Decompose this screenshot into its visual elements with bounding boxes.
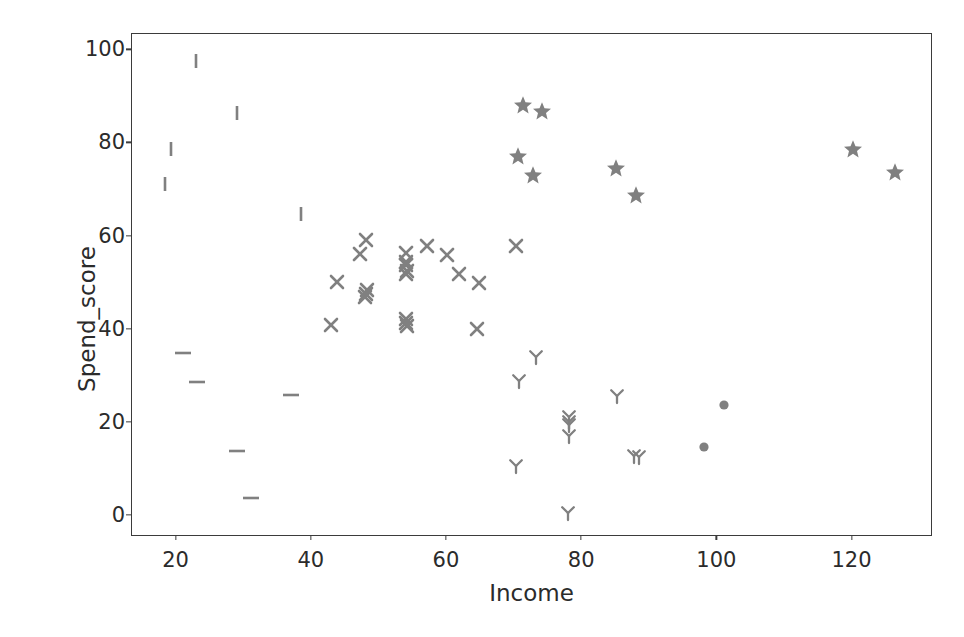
- data-point-x: [468, 320, 486, 338]
- x-tick-label: 80: [568, 548, 595, 572]
- y-tick-label: 60: [98, 224, 125, 248]
- data-point-vline: [160, 176, 170, 192]
- data-point-x: [450, 265, 468, 283]
- data-point-hline: [282, 390, 300, 400]
- data-point-x: [470, 274, 488, 292]
- data-point-tri_down_y: [560, 505, 576, 521]
- data-point-tri_down_y: [561, 428, 577, 444]
- data-point-tri_down_y: [609, 388, 625, 404]
- data-point-x: [356, 288, 374, 306]
- plot-area: [131, 33, 932, 536]
- data-point-x: [397, 314, 415, 332]
- data-point-x: [398, 262, 416, 280]
- data-point-star: [523, 165, 543, 185]
- data-point-x: [397, 310, 415, 328]
- data-point-x: [397, 253, 415, 271]
- data-point-tri_down_y: [508, 458, 524, 474]
- data-point-circle: [698, 441, 710, 453]
- data-point-vline: [191, 53, 201, 69]
- y-tick-label: 80: [98, 130, 125, 154]
- x-tick-label: 40: [297, 548, 324, 572]
- data-point-tri_down_y: [561, 414, 577, 430]
- data-point-star: [508, 146, 528, 166]
- data-point-x: [397, 265, 415, 283]
- data-point-vline: [232, 105, 242, 121]
- data-point-star: [606, 158, 626, 178]
- data-point-x: [358, 281, 376, 299]
- data-point-x: [351, 245, 369, 263]
- x-tick-label: 100: [696, 548, 736, 572]
- data-point-x: [438, 246, 456, 264]
- data-point-hline: [174, 348, 192, 358]
- scatter-plot-figure: Spend_score 020406080100 20406080100120 …: [0, 0, 964, 637]
- data-point-tri_down_y: [631, 449, 647, 465]
- x-tick-mark: [445, 535, 446, 540]
- x-axis-tick-labels: 20406080100120: [131, 536, 932, 576]
- x-tick-mark: [175, 535, 176, 540]
- data-point-hline: [228, 446, 246, 456]
- y-tick-label: 0: [112, 503, 125, 527]
- data-point-x: [328, 273, 346, 291]
- data-point-x: [322, 316, 340, 334]
- data-point-tri_down_y: [561, 409, 577, 425]
- data-point-hline: [242, 493, 260, 503]
- data-point-star: [885, 162, 905, 182]
- data-point-x: [398, 317, 416, 335]
- data-point-tri_down_y: [511, 373, 527, 389]
- data-point-x: [357, 285, 375, 303]
- y-tick-label: 20: [98, 410, 125, 434]
- data-point-tri_down_y: [528, 349, 544, 365]
- data-point-hline: [188, 377, 206, 387]
- x-tick-label: 20: [162, 548, 189, 572]
- y-axis-tick-labels: 020406080100: [0, 33, 125, 536]
- x-tick-label: 120: [832, 548, 872, 572]
- x-axis-label: Income: [131, 580, 932, 606]
- data-point-x: [397, 244, 415, 262]
- data-point-circle: [718, 399, 730, 411]
- data-point-star: [532, 101, 552, 121]
- x-tick-label: 60: [433, 548, 460, 572]
- y-tick-label: 40: [98, 317, 125, 341]
- data-point-tri_down_y: [561, 417, 577, 433]
- x-tick-mark: [716, 535, 717, 540]
- data-point-x: [357, 231, 375, 249]
- data-point-star: [513, 95, 533, 115]
- data-point-vline: [296, 206, 306, 222]
- data-point-star: [843, 139, 863, 159]
- x-tick-mark: [310, 535, 311, 540]
- data-point-vline: [166, 141, 176, 157]
- data-point-tri_down_y: [626, 448, 642, 464]
- data-point-x: [397, 256, 415, 274]
- x-tick-mark: [851, 535, 852, 540]
- x-tick-mark: [581, 535, 582, 540]
- data-point-star: [626, 185, 646, 205]
- data-point-x: [507, 237, 525, 255]
- y-tick-label: 100: [85, 37, 125, 61]
- data-point-x: [418, 237, 436, 255]
